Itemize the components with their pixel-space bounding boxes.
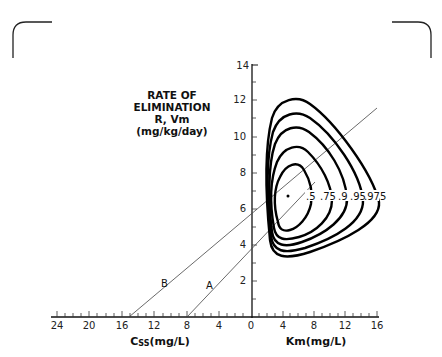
y-tick-4: 4 (240, 239, 246, 250)
probability-contours (267, 99, 380, 256)
contour-label-5: .5 (306, 191, 316, 202)
y-tick-6: 6 (240, 203, 246, 214)
x-right-axis-title: Km(mg/L) (286, 335, 346, 348)
x-left-axis-title: CSS(mg/L) (130, 335, 190, 348)
x-left-tick-20: 20 (83, 320, 96, 331)
contour-label-75: .75 (320, 191, 336, 202)
corner-bracket-left (13, 22, 52, 58)
x-left-tick-4: 4 (216, 320, 222, 331)
contour-label-9: .9 (338, 191, 348, 202)
line-a-label: A (206, 280, 213, 291)
chart-canvas: 2 4 6 8 10 12 14 (0, 0, 442, 357)
x-right-tick-8: 8 (311, 320, 317, 331)
center-point (287, 195, 290, 198)
title-line-3: R, Vm (132, 113, 212, 125)
corner-bracket-right (392, 22, 431, 58)
line-b-label: B (161, 278, 168, 289)
x-right-tick-4: 4 (280, 320, 286, 331)
x-left-tick-16: 16 (116, 320, 129, 331)
y-axis-title: RATE OF ELIMINATION R, Vm (mg/kg/day) (132, 89, 212, 137)
y-tick-12: 12 (233, 94, 246, 105)
x-tick-0: 0 (248, 320, 254, 331)
y-axis: 2 4 6 8 10 12 14 (233, 60, 258, 318)
x-axis: 24 20 16 12 8 4 0 4 8 12 16 CSS(mg/L) Km… (51, 311, 384, 348)
x-right-tick-12: 12 (339, 320, 352, 331)
x-left-tick-12: 12 (148, 320, 161, 331)
x-right-tick-16: 16 (371, 320, 384, 331)
y-tick-8: 8 (240, 167, 246, 178)
title-line-1: RATE OF (132, 89, 212, 101)
y-tick-2: 2 (240, 275, 246, 286)
title-line-2: ELIMINATION (132, 101, 212, 113)
y-tick-14: 14 (236, 60, 249, 71)
estimation-lines: A B (129, 108, 377, 317)
title-line-4: (mg/kg/day) (132, 125, 212, 137)
contour-label-975: .975 (364, 191, 386, 202)
y-tick-10: 10 (233, 131, 246, 142)
x-left-tick-8: 8 (184, 320, 190, 331)
contour-labels: .5 .75 .9 .95 .975 (305, 190, 386, 202)
x-left-tick-24: 24 (51, 320, 64, 331)
